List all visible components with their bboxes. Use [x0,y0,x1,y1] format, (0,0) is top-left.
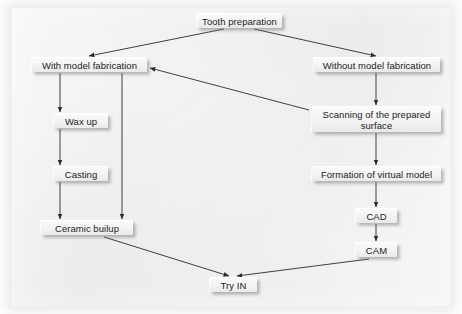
node-cad[interactable]: CAD [355,208,397,223]
node-label-with_model: With model fabrication [37,60,142,71]
node-label-casting: Casting [59,169,103,180]
node-cam[interactable]: CAM [355,242,397,257]
node-scanning[interactable]: Scanning of the prepared surface [311,106,441,132]
node-ceramic_buildup[interactable]: Ceramic builup [40,220,133,235]
node-formation_virtual_model[interactable]: Formation of virtual model [311,166,441,181]
node-wax_up[interactable]: Wax up [53,113,108,128]
node-tooth_preparation[interactable]: Tooth preparation [196,13,282,28]
edge-scanning-to-with-model [150,68,309,110]
node-label-scanning: Scanning of the prepared surface [317,109,436,131]
edge-tooth-to-without-model [254,29,376,56]
node-label-wax_up: Wax up [59,116,103,127]
node-label-without_model: Without model fabrication [319,60,435,71]
edge-tooth-to-with-model [89,29,224,56]
node-try_in[interactable]: Try IN [209,277,257,292]
edge-ceramic-to-try-in [104,237,229,276]
node-label-cam: CAM [361,245,392,256]
node-label-cad: CAD [361,211,392,222]
node-label-try_in: Try IN [215,280,252,291]
flowchart-diagram: Tooth preparationWith model fabricationW… [0,0,462,314]
node-with_model[interactable]: With model fabrication [31,57,147,72]
node-label-formation_virtual_model: Formation of virtual model [317,169,436,180]
edge-cam-to-try-in [237,259,369,276]
node-casting[interactable]: Casting [53,166,108,181]
connector-layer [0,0,462,314]
node-without_model[interactable]: Without model fabrication [313,57,440,72]
node-label-ceramic_buildup: Ceramic builup [46,223,128,234]
node-label-tooth_preparation: Tooth preparation [202,16,277,27]
